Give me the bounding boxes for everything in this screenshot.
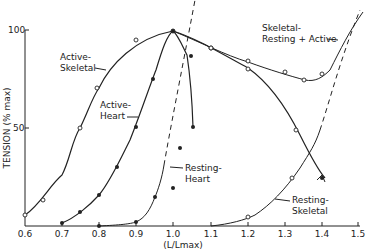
label-active-skeletal: Active- bbox=[60, 52, 91, 62]
y-axis-label: TENSION (% max) bbox=[2, 87, 12, 169]
label-resting-skeletal: Resting- bbox=[292, 195, 329, 205]
resting-skeletal-dashed bbox=[320, 10, 360, 130]
svg-text:1.0: 1.0 bbox=[166, 229, 181, 239]
svg-text:1.4: 1.4 bbox=[315, 229, 330, 239]
svg-text:1.5: 1.5 bbox=[351, 229, 365, 239]
label-active-heart: Active- bbox=[100, 100, 131, 110]
length-tension-chart: 100 50 0.6 0.7 0.8 0.9 1.0 1.1 1.2 1.3 1… bbox=[0, 0, 367, 250]
y-tick-50: 50 bbox=[13, 123, 25, 133]
svg-text:1.2: 1.2 bbox=[241, 229, 255, 239]
svg-text:1.1: 1.1 bbox=[204, 229, 218, 239]
svg-text:Heart: Heart bbox=[185, 174, 211, 184]
svg-text:Resting + Active: Resting + Active bbox=[262, 34, 337, 44]
label-resting-heart: Resting- bbox=[185, 163, 222, 173]
svg-text:0.7: 0.7 bbox=[55, 229, 69, 239]
svg-text:0.9: 0.9 bbox=[129, 229, 144, 239]
y-tick-100: 100 bbox=[8, 25, 25, 35]
svg-text:0.8: 0.8 bbox=[92, 229, 107, 239]
svg-text:0.6: 0.6 bbox=[18, 229, 33, 239]
x-tick-labels: 0.6 0.7 0.8 0.9 1.0 1.1 1.2 1.3 1.4 1.5 bbox=[18, 229, 365, 239]
svg-text:Skeletal: Skeletal bbox=[60, 63, 96, 73]
x-axis-label: (L/Lmax) bbox=[163, 240, 203, 250]
resting-heart-markers bbox=[97, 146, 182, 228]
resting-skeletal-markers bbox=[246, 176, 294, 219]
svg-text:1.3: 1.3 bbox=[278, 229, 292, 239]
label-combined: Skeletal- bbox=[262, 23, 301, 33]
svg-text:Skeletal: Skeletal bbox=[292, 206, 328, 216]
combined-markers bbox=[209, 46, 324, 82]
svg-text:Heart: Heart bbox=[100, 111, 126, 121]
